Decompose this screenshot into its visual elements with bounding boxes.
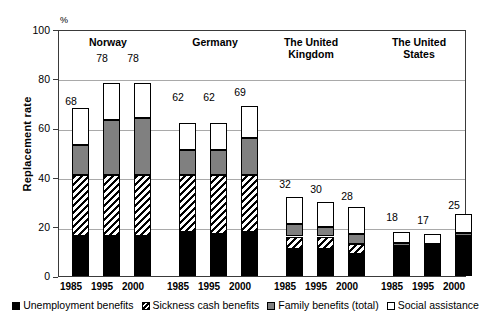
solid-gray-swatch-icon: [267, 302, 275, 310]
legend-item-family-benefits[interactable]: Family benefits (total): [267, 299, 378, 311]
legend-label: Family benefits (total): [278, 299, 378, 311]
bar-norway-1985[interactable]: [72, 108, 89, 276]
segment-social-assistance: [424, 234, 441, 244]
segment-sickness-cash-benefits: [210, 175, 227, 234]
y-tick-label-80: 80: [16, 73, 50, 85]
segment-unemployment-benefits: [134, 236, 151, 276]
segment-family-benefits: [210, 150, 227, 175]
segment-unemployment-benefits: [317, 249, 334, 276]
plot-area: [58, 30, 466, 277]
segment-family-benefits: [348, 234, 365, 244]
chart-legend: Unemployment benefitsSickness cash benef…: [0, 299, 491, 311]
legend-item-social-assistance[interactable]: Social assistance: [387, 299, 479, 311]
bar-uk-1985[interactable]: [286, 197, 303, 276]
y-tick-label-100: 100: [16, 24, 50, 36]
segment-family-benefits: [241, 138, 258, 175]
segment-unemployment-benefits: [348, 254, 365, 276]
solid-black-swatch-icon: [12, 302, 20, 310]
y-tick-mark-0: [53, 277, 58, 278]
segment-unemployment-benefits: [72, 236, 89, 276]
value-label-us-1995: 17: [403, 214, 443, 226]
legend-item-sickness-cash-benefits[interactable]: Sickness cash benefits: [142, 299, 260, 311]
segment-social-assistance: [103, 83, 120, 120]
group-title-united-kingdom: The United Kingdom: [272, 36, 350, 60]
segment-social-assistance: [286, 197, 303, 224]
x-tick-label-norway-2000: 2000: [113, 281, 153, 292]
segment-unemployment-benefits: [210, 234, 227, 276]
bar-uk-1995[interactable]: [317, 202, 334, 276]
hatched-swatch-icon: [142, 302, 150, 310]
segment-sickness-cash-benefits: [348, 244, 365, 254]
segment-social-assistance: [134, 83, 151, 118]
bar-germany-1995[interactable]: [210, 123, 227, 276]
group-title-germany: Germany: [160, 36, 270, 48]
segment-unemployment-benefits: [424, 246, 441, 276]
segment-family-benefits: [134, 118, 151, 175]
bar-germany-2000[interactable]: [241, 106, 258, 276]
segment-sickness-cash-benefits: [241, 175, 258, 232]
segment-sickness-cash-benefits: [134, 175, 151, 237]
segment-family-benefits: [393, 243, 410, 247]
segment-unemployment-benefits: [455, 236, 472, 276]
x-tick-label-germany-2000: 2000: [220, 281, 260, 292]
value-label-germany-2000: 69: [220, 86, 260, 98]
segment-sickness-cash-benefits: [179, 175, 196, 232]
x-tick-label-uk-2000: 2000: [327, 281, 367, 292]
segment-social-assistance: [455, 214, 472, 233]
x-tick-label-us-2000: 2000: [434, 281, 474, 292]
value-label-uk-2000: 28: [327, 190, 367, 202]
bar-us-1995[interactable]: [424, 234, 441, 276]
segment-social-assistance: [179, 123, 196, 150]
segment-family-benefits: [179, 150, 196, 175]
value-label-norway-1985: 68: [51, 95, 91, 107]
bar-germany-1985[interactable]: [179, 123, 196, 276]
segment-social-assistance: [393, 232, 410, 243]
chart-container: Replacement rate % 100 80 60 40 20 0: [0, 0, 491, 319]
value-label-us-2000: 25: [434, 199, 474, 211]
group-title-norway: Norway: [53, 36, 163, 48]
bar-norway-2000[interactable]: [134, 83, 151, 276]
bar-us-2000[interactable]: [455, 214, 472, 276]
segment-social-assistance: [317, 202, 334, 227]
segment-family-benefits: [72, 145, 89, 175]
segment-social-assistance: [210, 123, 227, 150]
legend-label: Social assistance: [398, 299, 479, 311]
legend-label: Unemployment benefits: [23, 299, 133, 311]
y-tick-label-20: 20: [16, 221, 50, 233]
bar-norway-1995[interactable]: [103, 83, 120, 276]
bar-uk-2000[interactable]: [348, 207, 365, 276]
segment-family-benefits: [455, 233, 472, 237]
value-label-norway-2000: 78: [113, 52, 153, 64]
y-tick-label-60: 60: [16, 122, 50, 134]
segment-sickness-cash-benefits: [286, 237, 303, 249]
bar-us-1985[interactable]: [393, 232, 410, 276]
segment-unemployment-benefits: [286, 249, 303, 276]
outline-white-swatch-icon: [387, 302, 395, 310]
y-tick-label-40: 40: [16, 172, 50, 184]
segment-family-benefits: [424, 244, 441, 246]
segment-unemployment-benefits: [103, 236, 120, 276]
segment-sickness-cash-benefits: [72, 175, 89, 237]
segment-unemployment-benefits: [241, 232, 258, 276]
legend-label: Sickness cash benefits: [153, 299, 260, 311]
segment-sickness-cash-benefits: [317, 237, 334, 249]
segment-family-benefits: [317, 227, 334, 237]
gridline-80: [59, 80, 465, 81]
segment-family-benefits: [103, 120, 120, 174]
group-title-united-states: The United States: [380, 36, 458, 60]
segment-social-assistance: [72, 108, 89, 145]
y-tick-label-0: 0: [16, 270, 50, 282]
segment-social-assistance: [241, 106, 258, 138]
segment-unemployment-benefits: [179, 232, 196, 276]
segment-social-assistance: [348, 207, 365, 234]
segment-unemployment-benefits: [393, 246, 410, 276]
legend-item-unemployment-benefits[interactable]: Unemployment benefits: [12, 299, 133, 311]
segment-family-benefits: [286, 224, 303, 236]
segment-sickness-cash-benefits: [103, 175, 120, 237]
y-axis-unit: %: [60, 15, 68, 25]
